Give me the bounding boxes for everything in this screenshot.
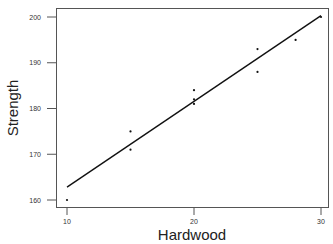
data-points — [66, 16, 322, 201]
x-tick-label: 10 — [63, 218, 71, 225]
data-point — [193, 103, 195, 105]
y-tick-label: 170 — [29, 151, 41, 158]
y-tick-label: 190 — [29, 59, 41, 66]
y-axis-title: Strength — [4, 80, 21, 137]
y-tick-label: 200 — [29, 14, 41, 21]
y-tick-label: 180 — [29, 105, 41, 112]
x-tick-label: 30 — [317, 218, 325, 225]
x-axis-title: Hardwood — [158, 226, 226, 243]
x-axis: 102030 — [63, 207, 325, 225]
y-tick-label: 160 — [29, 197, 41, 204]
data-point — [320, 16, 322, 18]
x-tick-label: 20 — [190, 218, 198, 225]
fit-line-segment — [67, 16, 321, 188]
data-point — [193, 89, 195, 91]
data-point — [193, 98, 195, 100]
data-point — [256, 71, 258, 73]
data-point — [129, 130, 131, 132]
y-axis: 160170180190200 — [29, 14, 56, 204]
data-point — [295, 39, 297, 41]
scatter-chart: 160170180190200 102030 Hardwood Strength — [0, 0, 333, 244]
data-point — [129, 149, 131, 151]
data-point — [66, 199, 68, 201]
data-point — [256, 48, 258, 50]
fitted-regression-line — [67, 16, 321, 188]
